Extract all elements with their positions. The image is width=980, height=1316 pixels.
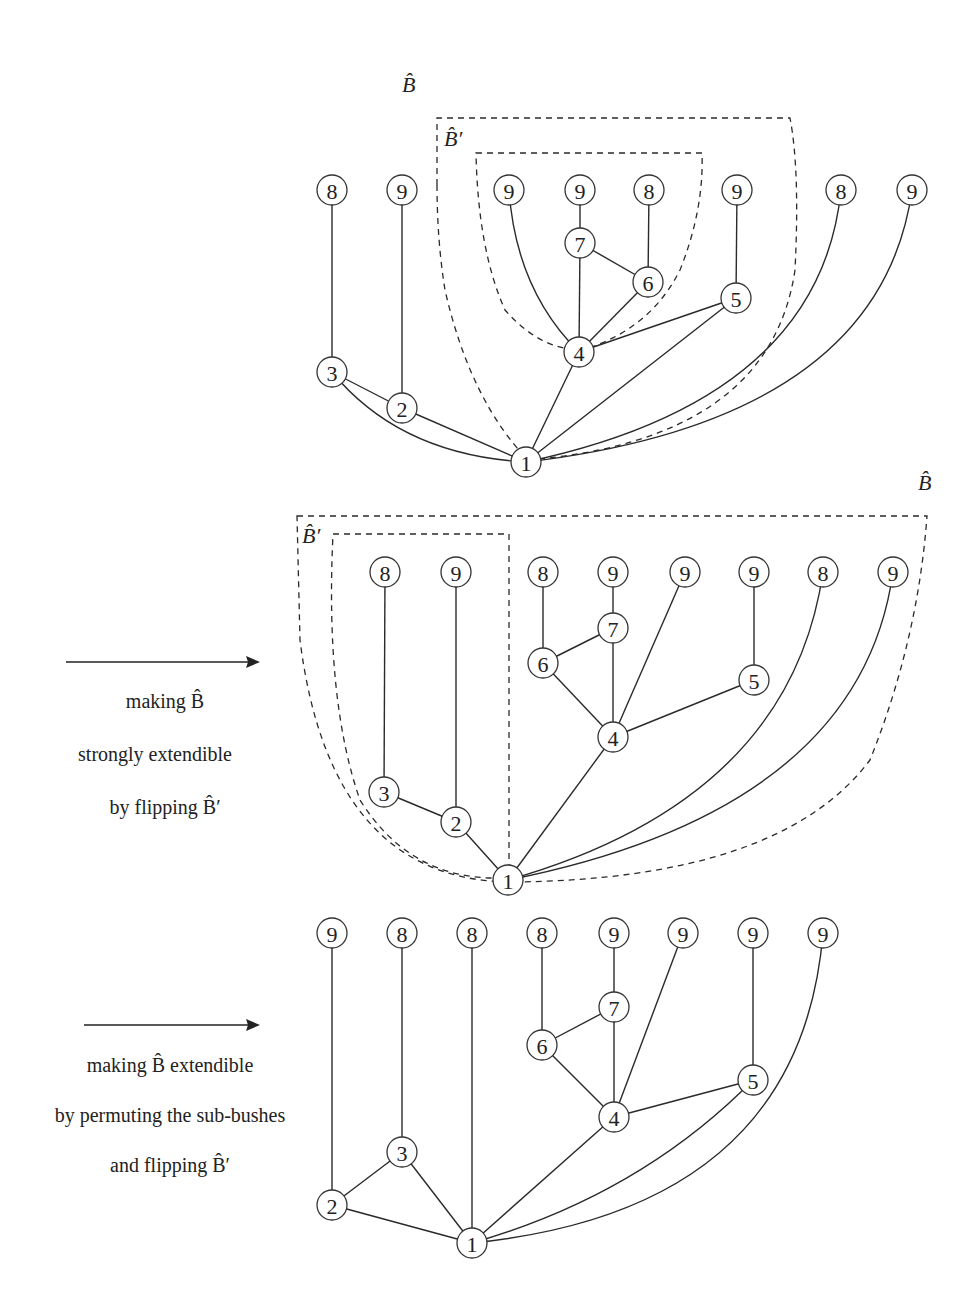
edge-original-n5-n4 bbox=[579, 298, 736, 352]
node-original-a6: 9 bbox=[722, 175, 752, 205]
node-strongly-extendible-a1: 8 bbox=[370, 557, 400, 587]
node-original-n6: 6 bbox=[633, 267, 663, 297]
node-original-a4: 9 bbox=[565, 175, 595, 205]
node-label: 9 bbox=[504, 179, 515, 204]
node-strongly-extendible-a5: 9 bbox=[670, 557, 700, 587]
b-hat-prime-label-middle: B̂′ bbox=[302, 523, 320, 549]
node-extendible-a8: 9 bbox=[808, 918, 838, 948]
node-label: 9 bbox=[818, 922, 829, 947]
node-extendible-n7: 7 bbox=[599, 992, 629, 1022]
node-label: 9 bbox=[608, 561, 619, 586]
node-extendible-n1: 1 bbox=[457, 1228, 487, 1258]
b-hat-label-middle: B̂ bbox=[918, 470, 931, 496]
node-label: 8 bbox=[836, 179, 847, 204]
node-label: 3 bbox=[327, 361, 338, 386]
node-label: 2 bbox=[451, 811, 462, 836]
node-strongly-extendible-n5: 5 bbox=[739, 665, 769, 695]
node-label: 1 bbox=[503, 869, 514, 894]
edge-original-a3-n4 bbox=[509, 190, 579, 352]
b-hat-label-top: B̂ bbox=[402, 72, 415, 98]
node-original-n4: 4 bbox=[564, 337, 594, 367]
node-label: 8 bbox=[467, 922, 478, 947]
node-extendible-n4: 4 bbox=[599, 1102, 629, 1132]
edge-original-n7-n4 bbox=[579, 243, 580, 352]
node-strongly-extendible-a7: 8 bbox=[808, 557, 838, 587]
node-label: 8 bbox=[397, 922, 408, 947]
node-extendible-n5: 5 bbox=[738, 1065, 768, 1095]
arrow-icon bbox=[84, 1015, 269, 1035]
edge-extendible-n3-n1 bbox=[402, 1152, 472, 1243]
node-strongly-extendible-n1: 1 bbox=[493, 865, 523, 895]
node-label: 8 bbox=[644, 179, 655, 204]
node-strongly-extendible-a8: 9 bbox=[878, 557, 908, 587]
node-extendible-n6: 6 bbox=[527, 1030, 557, 1060]
edge-strongly-extendible-a8-n1 bbox=[508, 572, 893, 880]
node-label: 8 bbox=[537, 922, 548, 947]
node-original-a5: 8 bbox=[634, 175, 664, 205]
node-strongly-extendible-n7: 7 bbox=[598, 613, 628, 643]
node-original-n5: 5 bbox=[721, 283, 751, 313]
node-extendible-a3: 8 bbox=[457, 918, 487, 948]
node-original-a7: 8 bbox=[826, 175, 856, 205]
node-extendible-a1: 9 bbox=[317, 918, 347, 948]
node-label: 9 bbox=[451, 561, 462, 586]
edge-original-n4-n1 bbox=[526, 352, 579, 462]
node-extendible-a7: 9 bbox=[738, 918, 768, 948]
node-original-a2: 9 bbox=[387, 175, 417, 205]
node-label: 7 bbox=[575, 232, 586, 257]
node-label: 9 bbox=[888, 561, 899, 586]
edge-extendible-a6-n4 bbox=[614, 933, 683, 1117]
node-label: 9 bbox=[749, 561, 760, 586]
arrow-icon bbox=[66, 652, 266, 672]
node-label: 8 bbox=[327, 179, 338, 204]
node-label: 7 bbox=[609, 996, 620, 1021]
edge-extendible-n5-n4 bbox=[614, 1080, 753, 1117]
node-label: 6 bbox=[537, 1034, 548, 1059]
step1-line1: making B̂ bbox=[60, 690, 270, 713]
node-label: 3 bbox=[397, 1141, 408, 1166]
edge-original-n3-n1 bbox=[332, 372, 526, 462]
node-label: 9 bbox=[680, 561, 691, 586]
node-label: 8 bbox=[380, 561, 391, 586]
node-strongly-extendible-a3: 8 bbox=[528, 557, 558, 587]
node-label: 9 bbox=[907, 179, 918, 204]
node-label: 9 bbox=[609, 922, 620, 947]
node-label: 9 bbox=[397, 179, 408, 204]
node-label: 9 bbox=[748, 922, 759, 947]
node-original-a3: 9 bbox=[494, 175, 524, 205]
node-label: 4 bbox=[574, 341, 585, 366]
node-original-n1: 1 bbox=[511, 447, 541, 477]
edge-extendible-n4-n1 bbox=[472, 1117, 614, 1243]
node-label: 4 bbox=[608, 726, 619, 751]
step1-line3: by flipping B̂′ bbox=[60, 796, 270, 819]
node-label: 6 bbox=[643, 271, 654, 296]
node-original-n2: 2 bbox=[387, 393, 417, 423]
node-label: 9 bbox=[327, 922, 338, 947]
region-b-hat-prime-middle bbox=[332, 534, 509, 878]
step1-line2: strongly extendible bbox=[50, 743, 260, 766]
node-extendible-a4: 8 bbox=[527, 918, 557, 948]
node-strongly-extendible-n2: 2 bbox=[441, 807, 471, 837]
edge-extendible-n2-n1 bbox=[332, 1205, 472, 1243]
node-label: 5 bbox=[748, 1069, 759, 1094]
node-label: 2 bbox=[327, 1194, 338, 1219]
node-original-a8: 9 bbox=[897, 175, 927, 205]
node-original-n3: 3 bbox=[317, 357, 347, 387]
b-hat-prime-label-top: B̂′ bbox=[444, 126, 462, 152]
step2-line3: and flipping B̂′ bbox=[40, 1154, 300, 1177]
node-strongly-extendible-a6: 9 bbox=[739, 557, 769, 587]
node-label: 9 bbox=[732, 179, 743, 204]
node-label: 4 bbox=[609, 1106, 620, 1131]
node-extendible-a6: 9 bbox=[668, 918, 698, 948]
node-label: 1 bbox=[467, 1232, 478, 1257]
node-extendible-a5: 9 bbox=[599, 918, 629, 948]
step2-line1: making B̂ extendible bbox=[40, 1054, 300, 1077]
node-strongly-extendible-a4: 9 bbox=[598, 557, 628, 587]
node-label: 6 bbox=[538, 652, 549, 677]
node-extendible-a2: 8 bbox=[387, 918, 417, 948]
node-label: 9 bbox=[575, 179, 586, 204]
node-label: 8 bbox=[538, 561, 549, 586]
node-original-n7: 7 bbox=[565, 228, 595, 258]
node-extendible-n2: 2 bbox=[317, 1190, 347, 1220]
node-strongly-extendible-n4: 4 bbox=[598, 722, 628, 752]
